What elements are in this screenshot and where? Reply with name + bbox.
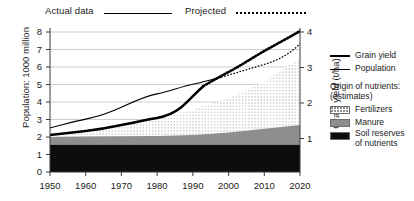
y-axis-left-ticks (46, 32, 50, 172)
y-tick-left-1: 1 (28, 149, 42, 160)
y-tick-right-3: 3 (307, 62, 321, 73)
legend-item-population: Population (330, 63, 414, 75)
legend-label-manure: Manure (355, 117, 384, 127)
y-tick-left-0: 0 (28, 166, 42, 177)
soil-reserves-swatch-icon (330, 132, 350, 140)
y-tick-left-5: 5 (28, 79, 42, 90)
x-tick-1960: 1960 (69, 180, 103, 191)
x-tick-1950: 1950 (33, 180, 67, 191)
y-tick-left-8: 8 (28, 26, 42, 37)
population-line-icon (330, 69, 350, 70)
legend-label-fertilizers: Fertilizers (355, 104, 392, 114)
legend-origin-header: Origin of nutrients: (estimates) (330, 81, 414, 101)
y-tick-right-1: 1 (307, 133, 321, 144)
x-tick-1990: 1990 (176, 180, 210, 191)
legend-label-soil-line2: of nutrients (355, 138, 398, 148)
y-tick-left-3: 3 (28, 114, 42, 125)
legend-item-grain-yield: Grain yield (330, 50, 414, 62)
chart-figure: Actual data Projected Population: 1000 m… (0, 0, 414, 201)
area-fertilizers (50, 58, 300, 137)
legend-label-soil-line1: Soil reserves (355, 128, 405, 138)
x-tick-2010: 2010 (247, 180, 281, 191)
manure-swatch-icon (330, 119, 350, 127)
y-tick-right-4: 4 (307, 26, 321, 37)
y-tick-left-4: 4 (28, 96, 42, 107)
chart-legend: Grain yield Population Origin of nutrien… (330, 50, 414, 151)
y-tick-left-7: 7 (28, 44, 42, 55)
y-tick-right-2: 2 (307, 97, 321, 108)
x-tick-1980: 1980 (140, 180, 174, 191)
legend-label-grain-yield: Grain yield (355, 50, 396, 60)
legend-label-soil-reserves: Soil reserves of nutrients (355, 129, 405, 148)
fertilizers-swatch-icon (330, 106, 350, 114)
y-tick-left-6: 6 (28, 61, 42, 72)
x-tick-2020: 2020 (283, 180, 317, 191)
grain-yield-line-icon (330, 55, 350, 57)
y-tick-left-2: 2 (28, 131, 42, 142)
x-axis-ticks (50, 172, 300, 176)
legend-origin-header-line1: Origin of nutrients: (330, 81, 414, 91)
legend-item-fertilizers: Fertilizers (330, 104, 414, 116)
legend-origin-header-line2: (estimates) (330, 91, 414, 101)
legend-label-population: Population (355, 63, 396, 73)
y-axis-right-ticks (300, 32, 304, 139)
x-tick-1970: 1970 (104, 180, 138, 191)
legend-item-soil-reserves: Soil reserves of nutrients (330, 130, 414, 150)
area-soil-reserves (50, 145, 300, 172)
x-tick-2000: 2000 (212, 180, 246, 191)
